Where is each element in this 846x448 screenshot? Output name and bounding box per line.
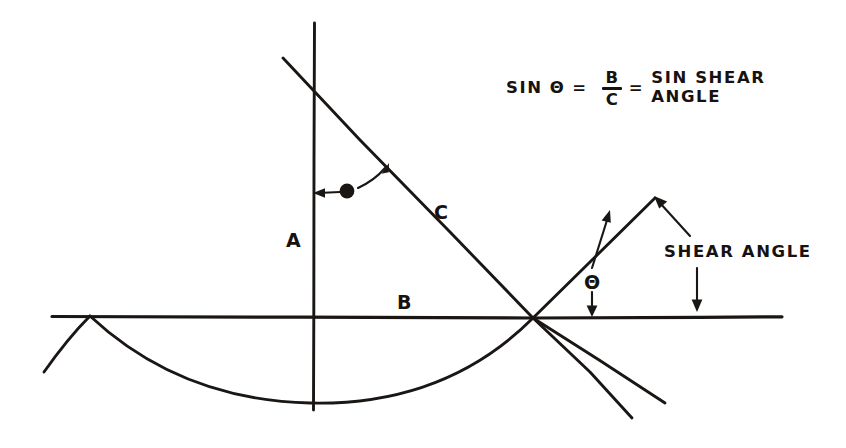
shear-angle-formula: SIN Θ = B C = SIN SHEAR ANGLE (506, 68, 846, 107)
parabolic-curve (90, 316, 533, 403)
vertical-line-a (314, 23, 315, 410)
label-line-a: A (286, 229, 301, 251)
formula-denominator: C (606, 91, 618, 108)
cusp-left-ray (44, 316, 90, 372)
label-theta-lower: Θ (584, 271, 600, 293)
theta-upper-dot (340, 184, 355, 199)
theta-lower-arrow-up-head (602, 210, 611, 223)
formula-equals-first: = (572, 78, 587, 97)
label-line-c: C (434, 201, 448, 223)
formula-sin-label: SIN (506, 78, 543, 97)
formula-equals-second: = (629, 78, 644, 97)
formula-fraction: B C (602, 69, 622, 108)
shear-angle-leader-arrowhead (654, 196, 667, 209)
shear-ray (533, 198, 655, 318)
shear-angle-diagram: SIN Θ = B C = SIN SHEAR ANGLE A B C Θ SH… (0, 0, 846, 448)
horizontal-line-b (52, 317, 782, 319)
theta-lower-arrow-down-head (587, 306, 598, 318)
lower-ray-curved (533, 318, 665, 403)
label-line-b: B (397, 291, 412, 313)
formula-right-hand-side: SIN SHEAR ANGLE (651, 68, 839, 106)
lower-ray-straight (533, 318, 632, 418)
formula-theta-symbol: Θ (550, 78, 566, 97)
shear-angle-right-leader-arrowhead (692, 300, 703, 313)
label-shear-angle: SHEAR ANGLE (664, 242, 812, 261)
diagonal-line-c (283, 58, 533, 318)
formula-numerator: B (605, 69, 618, 86)
theta-lower-arrow-up-line (592, 217, 608, 268)
theta-upper-arc (358, 168, 385, 188)
shear-angle-leader-line (660, 203, 690, 236)
